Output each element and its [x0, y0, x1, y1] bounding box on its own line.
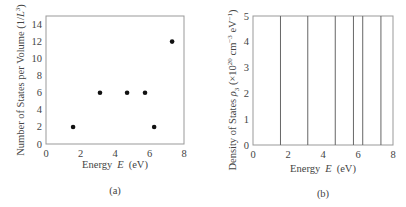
y-tick-label: 4	[244, 36, 250, 47]
y-tick-label: 0	[244, 140, 249, 151]
x-tick-label: 2	[78, 148, 83, 159]
data-point	[125, 91, 130, 96]
plot-frame	[46, 16, 184, 144]
dos-plot-b: 02468012345 Density of States ρ3 (×1020 …	[203, 0, 406, 207]
x-tick-label: 8	[181, 148, 186, 159]
scatter-plot-a: 0246802468101214 Number of States per Vo…	[0, 0, 203, 207]
data-point	[152, 125, 157, 130]
data-point	[98, 91, 103, 96]
y-tick-label: 2	[244, 88, 249, 99]
y-tick-label: 10	[32, 53, 43, 64]
x-tick-label: 4	[320, 149, 326, 160]
data-point	[170, 39, 175, 44]
plot-frame	[253, 16, 393, 145]
y-tick-label: 12	[32, 36, 43, 47]
y-tick-label: 6	[37, 87, 42, 98]
y-tick-label: 2	[37, 121, 42, 132]
panel-b: 02468012345 Density of States ρ3 (×1020 …	[203, 0, 406, 207]
x-tick-label: 6	[147, 148, 152, 159]
ylabel-a: Number of States per Volume (1/L3)	[14, 4, 27, 156]
y-tick-label: 1	[244, 114, 249, 125]
data-point	[143, 91, 148, 96]
y-tick-label: 8	[37, 70, 42, 81]
xlabel-b: EnergyE(eV)	[290, 163, 356, 175]
y-tick-label: 5	[244, 11, 249, 22]
x-tick-label: 2	[285, 149, 290, 160]
panel-a: 0246802468101214 Number of States per Vo…	[0, 0, 203, 207]
y-tick-label: 14	[32, 19, 43, 30]
caption-a: (a)	[109, 185, 121, 197]
x-tick-label: 0	[43, 148, 48, 159]
caption-b: (b)	[317, 188, 330, 200]
y-tick-label: 4	[37, 104, 43, 115]
data-point	[71, 125, 76, 130]
x-tick-label: 0	[250, 149, 255, 160]
x-tick-label: 8	[390, 149, 395, 160]
ylabel-b: Density of States ρ3 (×1020 cm−3 eV−1)	[226, 9, 241, 171]
x-tick-label: 4	[112, 148, 118, 159]
y-tick-label: 0	[37, 139, 42, 150]
x-tick-label: 6	[355, 149, 360, 160]
xlabel-a: EnergyE(eV)	[82, 159, 148, 171]
y-tick-label: 3	[244, 62, 249, 73]
